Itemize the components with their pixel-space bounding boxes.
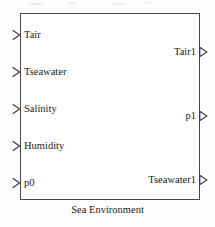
scan-artifact — [0, 0, 215, 9]
input-port-label-tseawater: Tseawater — [24, 67, 66, 78]
input-port-label-tair: Tair — [24, 30, 41, 41]
output-arrow-icon[interactable] — [199, 175, 208, 186]
output-arrow-icon[interactable] — [199, 111, 208, 122]
block-caption: Sea Environment — [0, 204, 215, 215]
output-port-label-p1: p1 — [186, 111, 197, 122]
output-port-label-tair1: Tair1 — [174, 47, 196, 58]
input-arrow-icon[interactable] — [12, 30, 21, 41]
input-port-label-p0: p0 — [24, 178, 35, 189]
diagram-canvas: Tair Tseawater Salinity Humidity p0 Tair… — [0, 0, 215, 227]
input-arrow-icon[interactable] — [12, 178, 21, 189]
input-arrow-icon[interactable] — [12, 67, 21, 78]
output-arrow-icon[interactable] — [199, 47, 208, 58]
input-port-label-humidity: Humidity — [24, 141, 64, 152]
input-port-label-salinity: Salinity — [24, 104, 57, 115]
input-arrow-icon[interactable] — [12, 104, 21, 115]
input-arrow-icon[interactable] — [12, 141, 21, 152]
output-port-label-tseawater1: Tseawater1 — [148, 175, 196, 186]
